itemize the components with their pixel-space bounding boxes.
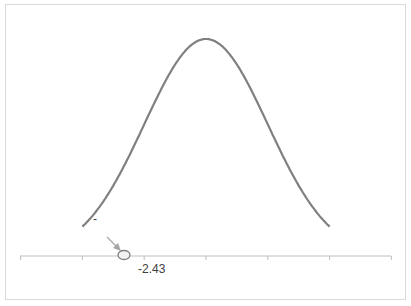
critical-point-marker [118,251,130,260]
normal-curve-plot [0,0,411,306]
critical-value-label: -2.43 [138,262,165,276]
x-axis-ticks [21,256,392,260]
arrow-label: - [93,212,97,226]
normal-curve [82,39,329,227]
